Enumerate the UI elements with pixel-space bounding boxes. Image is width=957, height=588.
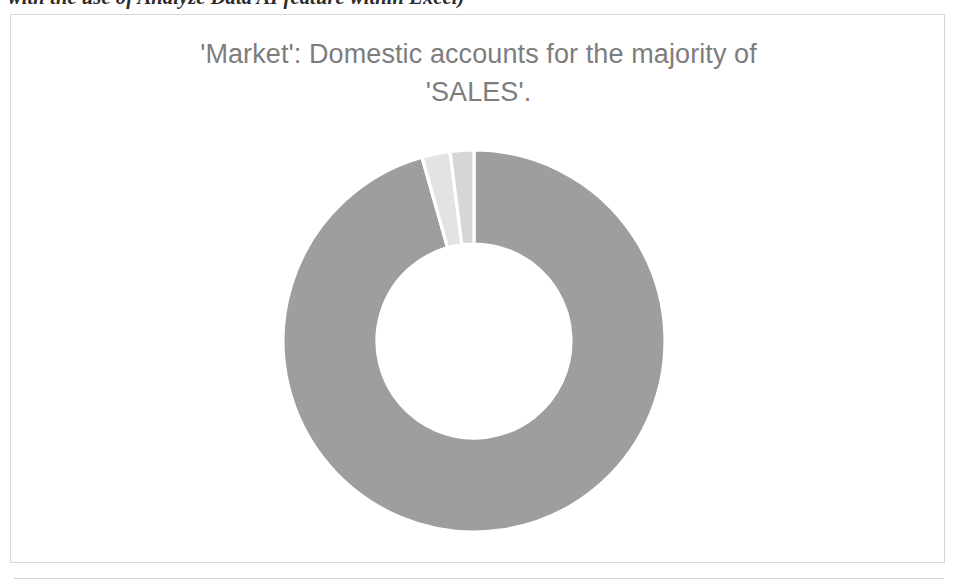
document-caption-strip: with the use of Analyze Data AI feature … [0,0,957,14]
document-caption-text: with the use of Analyze Data AI feature … [8,0,465,9]
doughnut-slice [450,150,474,245]
chart-frame: 'Market': Domestic accounts for the majo… [10,14,945,563]
doughnut-slice-group [283,150,665,532]
page-bottom-rule [14,578,944,579]
doughnut-slice [283,150,665,532]
doughnut-slice [422,152,462,248]
chart-title: 'Market': Domestic accounts for the majo… [11,35,946,111]
